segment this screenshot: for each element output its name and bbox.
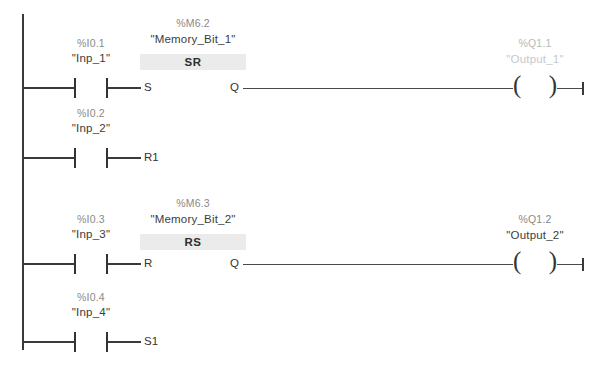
contact-inp-1[interactable] [74,78,108,98]
block-rs-name: "Memory_Bit_2" [133,213,253,225]
coil-paren-left: ( [513,248,521,274]
rung-2-wire-mid [108,157,141,159]
rung-3-wire-mid [108,263,141,265]
contact-inp-3-name: "Inp_3" [51,228,131,240]
coil-output-2[interactable]: ( ) [513,253,557,275]
block-sr-input-terminal-r1: R1 [144,151,159,163]
rung-3-end-tick [582,258,584,271]
contact-inp-2-name: "Inp_2" [51,122,131,134]
block-rs-input-terminal-s1: S1 [144,335,158,347]
block-sr-name: "Memory_Bit_1" [133,33,253,45]
rung-3-wire-left [22,263,74,265]
coil-output-1[interactable]: ( ) [513,77,557,99]
coil-output-1-name: "Output_1" [490,53,580,65]
contact-bar-left [74,332,76,352]
rung-4-wire-left [22,341,74,343]
contact-bar-left [74,78,76,98]
coil-output-2-address: %Q1.2 [495,213,575,225]
contact-inp-1-name: "Inp_1" [51,52,131,64]
block-rs-output-terminal-q: Q [230,257,239,269]
ladder-diagram: %I0.1 "Inp_1" %M6.2 "Memory_Bit_1" SR S … [0,0,600,382]
coil-output-2-name: "Output_2" [490,229,580,241]
block-rs-address: %M6.3 [143,197,243,209]
contact-inp-4-name: "Inp_4" [51,306,131,318]
coil-output-1-address: %Q1.1 [495,37,575,49]
contact-inp-2[interactable] [74,148,108,168]
rung-1-wire-q-to-coil [243,88,513,89]
contact-inp-4-address: %I0.4 [51,291,131,303]
rung-1-end-tick [582,82,584,95]
coil-paren-left: ( [513,72,521,98]
coil-paren-right: ) [549,248,557,274]
block-rs-type-band[interactable]: RS [140,234,246,250]
rung-3-wire-coil-to-end [557,264,583,265]
block-sr-input-terminal-s: S [144,81,152,93]
block-sr-output-terminal-q: Q [230,81,239,93]
rung-3-wire-q-to-coil [243,264,513,265]
coil-paren-right: ) [549,72,557,98]
block-rs-input-terminal-r: R [144,257,152,269]
contact-bar-left [74,148,76,168]
contact-inp-4[interactable] [74,332,108,352]
contact-inp-3-address: %I0.3 [51,213,131,225]
contact-inp-1-address: %I0.1 [51,37,131,49]
block-sr-address: %M6.2 [143,17,243,29]
rung-1-wire-mid [108,87,141,89]
rung-1-wire-coil-to-end [557,88,583,89]
contact-bar-left [74,254,76,274]
block-sr-type-band[interactable]: SR [140,54,246,70]
rung-4-wire-mid [108,341,141,343]
rung-1-wire-left [22,87,74,89]
contact-inp-2-address: %I0.2 [51,107,131,119]
contact-inp-3[interactable] [74,254,108,274]
rung-2-wire-left [22,157,74,159]
power-rail-left [22,14,24,350]
